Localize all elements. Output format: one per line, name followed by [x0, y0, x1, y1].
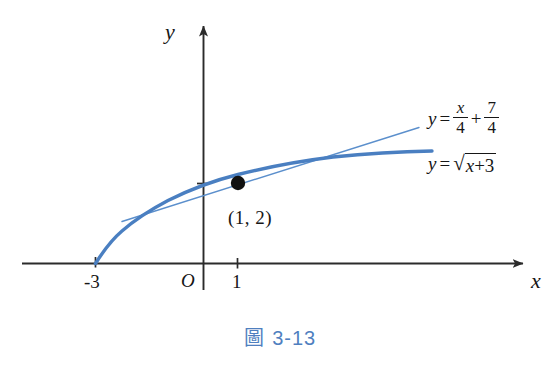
x-tick-label-one: 1: [232, 272, 242, 291]
tangent-eq-fraction-x-over-4: x 4: [453, 99, 468, 136]
curve-eq-radical: √ x+3: [453, 152, 496, 175]
figure-caption-number: 3-13: [272, 327, 316, 349]
x-tick-label-neg3: -3: [84, 272, 100, 291]
curve-eq-radicand: x+3: [465, 153, 497, 175]
plot-canvas: [0, 0, 560, 365]
figure-container: y x -3 1 O (1, 2) y = x 4 + 7 4 y = √ x+…: [0, 0, 560, 365]
tangency-point-marker: [231, 176, 245, 190]
tangent-equation-label: y = x 4 + 7 4: [428, 100, 500, 137]
tangent-eq-plus: +: [469, 109, 484, 128]
tangent-eq-term1-numerator: x: [454, 99, 468, 117]
curve-eq-lhs: y: [428, 154, 437, 173]
tangent-eq-lhs: y: [428, 109, 437, 128]
curve-eq-radicand-variable: x: [466, 155, 474, 176]
tangent-eq-equals: =: [437, 109, 452, 128]
x-axis-label: x: [531, 270, 541, 292]
y-axis-label: y: [165, 21, 175, 43]
figure-caption-prefix: 圖: [244, 326, 265, 350]
figure-caption: 圖 3-13: [0, 322, 560, 351]
curve-eq-radicand-operator: +: [474, 155, 485, 176]
curve-eq-equals: =: [437, 154, 452, 173]
curve-eq-radicand-constant: 3: [485, 155, 495, 176]
curve-equation-label: y = √ x+3: [428, 152, 496, 175]
tangent-eq-term2-numerator: 7: [484, 99, 499, 117]
radical-sign-icon: √: [453, 153, 465, 176]
origin-label: O: [181, 271, 195, 290]
tangency-point-label: (1, 2): [228, 208, 272, 227]
tangent-eq-term1-denominator: 4: [453, 117, 468, 136]
tangent-eq-fraction-7-over-4: 7 4: [484, 99, 499, 136]
tangent-eq-term2-denominator: 4: [484, 117, 499, 136]
